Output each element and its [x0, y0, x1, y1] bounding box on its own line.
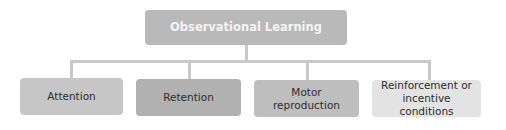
child-node-label-line2: incentive conditions: [399, 92, 453, 117]
child-node-label: Reinforcement or incentive conditions: [376, 79, 477, 118]
connector-to-retention: [188, 60, 191, 79]
connector-to-attention: [70, 60, 73, 78]
child-node-retention: Retention: [136, 79, 241, 116]
child-node-reinforcement: Reinforcement or incentive conditions: [372, 80, 481, 117]
child-node-label-line1: Reinforcement or: [381, 79, 472, 91]
child-node-label: Retention: [163, 91, 214, 104]
child-node-label: Motor reproduction: [273, 86, 340, 112]
child-node-attention: Attention: [20, 78, 123, 115]
root-node-label: Observational Learning: [170, 21, 322, 34]
child-node-motor-reproduction: Motor reproduction: [254, 80, 359, 117]
connector-to-motor-reproduction: [306, 60, 309, 80]
connector-horizontal-bar: [70, 60, 431, 63]
child-node-label-line1: Motor: [291, 86, 321, 98]
connector-to-reinforcement: [428, 60, 431, 80]
root-node-observational-learning: Observational Learning: [145, 10, 347, 45]
child-node-label-line2: reproduction: [273, 99, 340, 111]
child-node-label: Attention: [47, 90, 95, 103]
